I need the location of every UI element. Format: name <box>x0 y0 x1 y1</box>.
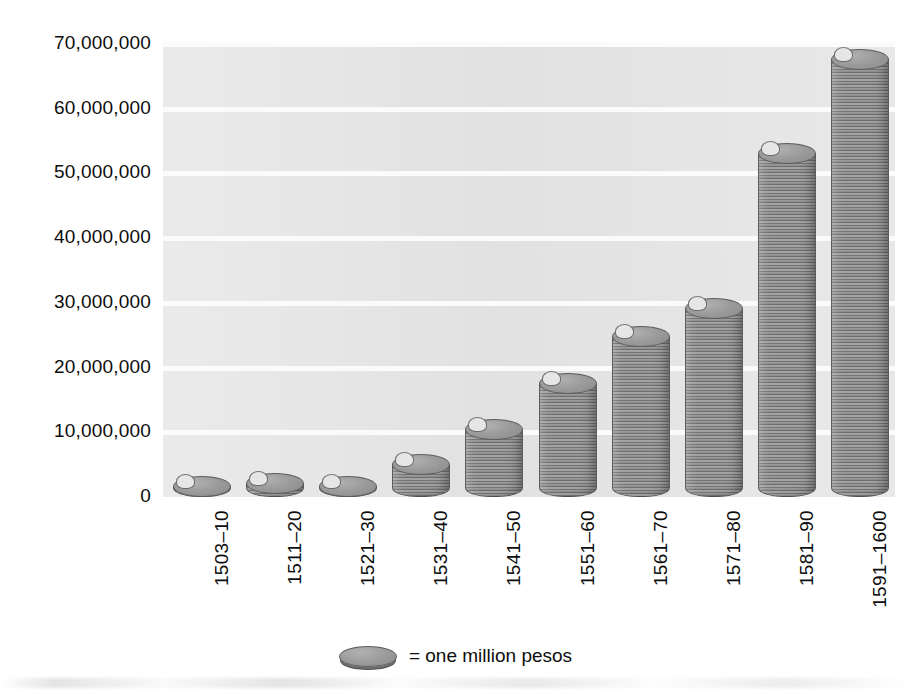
coin-stack <box>758 153 816 497</box>
coin-stack <box>246 483 304 497</box>
y-axis-tick-label: 60,000,000 <box>11 97 151 119</box>
bar <box>173 487 231 497</box>
x-axis-tick-label: 1561–70 <box>650 510 672 586</box>
legend-label: = one million pesos <box>409 645 572 667</box>
coin-stack <box>465 429 523 497</box>
x-axis-tick-label: 1503–10 <box>211 510 233 586</box>
coin-notch-icon <box>249 471 268 486</box>
coin-notch-icon <box>322 474 341 489</box>
coin-notch-icon <box>468 417 487 432</box>
coin-notch-icon <box>688 296 707 311</box>
y-axis-tick-label: 50,000,000 <box>11 161 151 183</box>
bar <box>539 384 597 497</box>
coin-notch-icon <box>542 371 561 386</box>
bar <box>685 309 743 497</box>
coin-stack-bar-chart: 010,000,00020,000,00030,000,00040,000,00… <box>0 0 911 694</box>
gridline <box>163 42 895 47</box>
coin-stack <box>831 59 889 497</box>
bar <box>392 465 450 497</box>
coin-stack <box>539 383 597 497</box>
coin-stack <box>612 336 670 497</box>
coin-notch-icon <box>176 474 195 489</box>
y-axis-tick-label: 20,000,000 <box>11 356 151 378</box>
x-axis-tick-label: 1531–40 <box>430 510 452 586</box>
x-axis-tick-label: 1511–20 <box>284 510 306 585</box>
coin-stack <box>685 308 743 497</box>
y-axis-tick-label: 40,000,000 <box>11 226 151 248</box>
x-axis-tick-label: 1581–90 <box>796 510 818 586</box>
bar <box>246 484 304 497</box>
coin-notch-icon <box>761 141 780 156</box>
coin-stack <box>319 486 377 497</box>
coin-stack <box>392 464 450 497</box>
bar <box>831 60 889 497</box>
gridline <box>163 107 895 112</box>
coin-notch-icon <box>834 47 853 62</box>
bar <box>319 487 377 497</box>
x-axis-tick-label: 1591–1600 <box>869 510 891 608</box>
coin-stack <box>173 486 231 497</box>
bar <box>758 154 816 497</box>
coin-notch-icon <box>395 452 414 467</box>
coin-icon <box>339 646 397 667</box>
coin-notch-icon <box>615 324 634 339</box>
y-axis-tick-label: 0 <box>11 485 151 507</box>
y-axis-tick-label: 70,000,000 <box>11 32 151 54</box>
y-axis-tick-label: 30,000,000 <box>11 291 151 313</box>
chart-legend: = one million pesos <box>0 645 911 667</box>
plot-area <box>163 44 895 497</box>
x-axis-tick-label: 1571–80 <box>723 510 745 586</box>
x-axis-tick-label: 1541–50 <box>503 510 525 586</box>
x-axis-tick-label: 1521–30 <box>357 510 379 586</box>
scan-artifact <box>0 678 911 688</box>
y-axis-tick-label: 10,000,000 <box>11 420 151 442</box>
bar <box>465 430 523 497</box>
x-axis-tick-label: 1551–60 <box>577 510 599 586</box>
bar <box>612 337 670 497</box>
